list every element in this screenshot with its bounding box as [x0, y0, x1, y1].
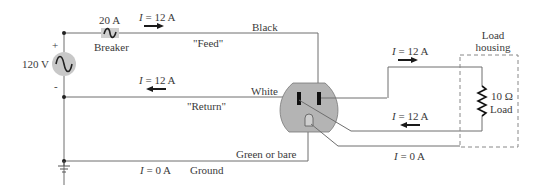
feed-color-label: Black — [252, 21, 278, 33]
load-name-label: Load — [490, 103, 513, 115]
load-resistance-label: 10 Ω — [491, 90, 513, 102]
outlet-icon — [280, 83, 338, 132]
ground-color-label: Green or bare — [236, 148, 296, 160]
load-ground-current-label: I = 0 A — [394, 150, 425, 162]
breaker-icon — [101, 28, 119, 38]
node-top — [62, 31, 66, 35]
arrow-left-return-icon — [146, 86, 166, 92]
arrow-left-load-icon — [400, 122, 420, 128]
feed-current-label: I = 12 A — [139, 11, 175, 23]
source-voltage-label: 120 V — [22, 58, 49, 70]
ground-role-label: Ground — [190, 164, 224, 176]
return-role-label: "Return" — [187, 100, 226, 112]
load-top-current-label: I = 12 A — [392, 45, 428, 57]
ac-source-icon — [52, 52, 76, 76]
source-plus-label: + — [52, 39, 58, 51]
load-housing-label: Load housing — [473, 29, 513, 53]
feed-role-label: "Feed" — [193, 37, 223, 49]
ground-current-label: I = 0 A — [140, 164, 171, 176]
resistor-icon — [478, 86, 486, 116]
node-mid — [62, 95, 66, 99]
return-color-label: White — [251, 85, 278, 97]
arrow-right-load-icon — [398, 57, 418, 63]
arrow-right-feed-icon — [144, 23, 164, 29]
source-minus-label: - — [54, 80, 58, 92]
return-current-label: I = 12 A — [139, 74, 175, 86]
load-bottom-current-label: I = 12 A — [392, 110, 428, 122]
breaker-rating: 20 A — [99, 14, 120, 26]
breaker-label: Breaker — [94, 41, 129, 53]
